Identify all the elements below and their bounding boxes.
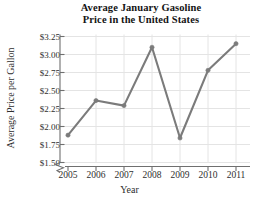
x-axis-ticks	[68, 167, 236, 172]
plot-area	[0, 0, 259, 201]
y-axis-break-icon	[56, 163, 64, 173]
gasoline-price-line-chart: Average January Gasoline Price in the Un…	[0, 0, 259, 201]
y-axis-ticks	[60, 37, 65, 163]
